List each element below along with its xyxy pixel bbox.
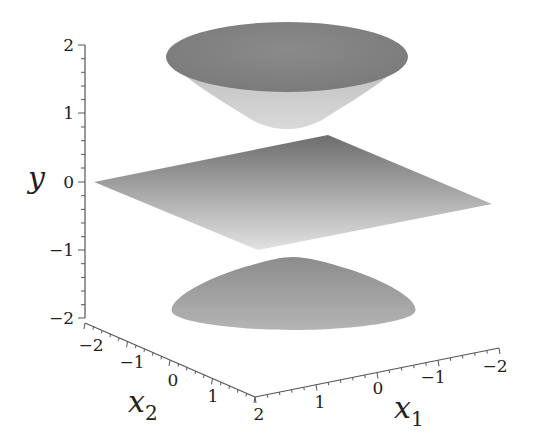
y-axis: 2 1 0 −1 −2 y xyxy=(26,35,85,328)
y-tick-label: −1 xyxy=(49,240,74,260)
x2-tick-label: −2 xyxy=(78,335,103,355)
y-tick-label: 0 xyxy=(63,172,74,192)
x1-tick-label: −2 xyxy=(482,356,507,376)
x2-tick-label: 1 xyxy=(208,386,219,406)
x2-axis: −2 −1 0 1 2 x2 xyxy=(78,323,264,425)
plane-surface xyxy=(94,135,492,250)
y-tick-label: 2 xyxy=(63,35,74,55)
y-tick-label: 1 xyxy=(63,103,74,123)
x1-tick-label: −1 xyxy=(420,367,445,387)
x1-tick-label: 0 xyxy=(373,378,384,398)
x1-axis: 1 0 −1 −2 x1 xyxy=(255,348,508,431)
x1-tick-label: 1 xyxy=(315,392,326,412)
y-tick-label: −2 xyxy=(49,308,74,328)
x2-axis-label: x2 xyxy=(128,384,158,425)
y-axis-label: y xyxy=(26,160,46,195)
x2-tick-label: 2 xyxy=(254,404,265,424)
x1-axis-label: x1 xyxy=(394,390,424,431)
x2-tick-label: −1 xyxy=(119,352,144,372)
upper-sheet-surface xyxy=(166,22,408,129)
x2-tick-label: 0 xyxy=(168,370,179,390)
surface-plot: 2 1 0 −1 −2 y xyxy=(0,0,534,444)
lower-sheet-surface xyxy=(172,257,416,330)
